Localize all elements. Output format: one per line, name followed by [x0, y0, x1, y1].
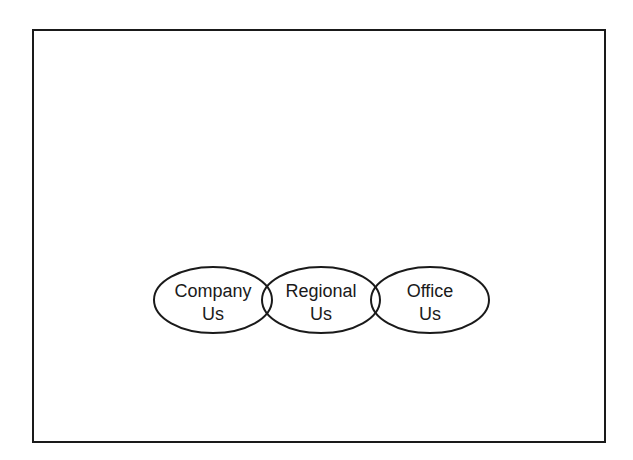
ellipse-company: Company Us [154, 267, 272, 333]
regional-label-line2: Us [310, 304, 332, 324]
ellipse-office: Office Us [371, 267, 489, 333]
office-label-line2: Us [419, 304, 441, 324]
regional-label-line1: Regional [285, 281, 356, 301]
ellipse-regional: Regional Us [262, 267, 380, 333]
office-label-line1: Office [407, 281, 454, 301]
company-label-line2: Us [202, 304, 224, 324]
venn-chain-diagram: Company Us Regional Us Office Us [0, 0, 633, 460]
company-label-line1: Company [174, 281, 251, 301]
